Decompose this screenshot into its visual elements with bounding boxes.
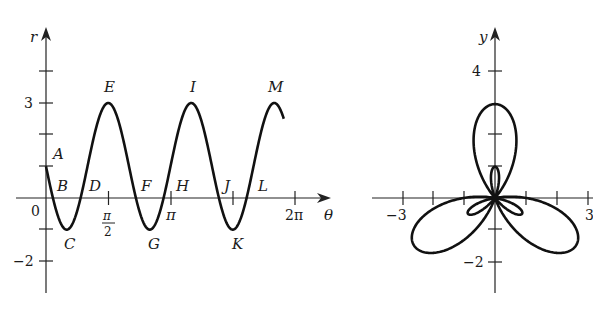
r-theta-curve	[46, 103, 284, 230]
point-label-g: G	[148, 235, 160, 253]
point-label-l: L	[257, 177, 268, 195]
figure: r θ 0 3 −2 π 2 π 2π A B C D E F G H I J …	[0, 0, 593, 311]
y-tick-neg2-label: −2	[463, 254, 484, 270]
r-tick-3-label: 3	[24, 95, 33, 111]
pi-half-numerator: π	[102, 209, 112, 223]
point-label-a: A	[51, 145, 64, 163]
point-label-f: F	[140, 177, 152, 195]
polar-chart: y 4 −2 −3 3	[372, 27, 593, 293]
point-labels: A B C D E F G H I J K L M	[51, 78, 284, 253]
origin-label: 0	[31, 203, 40, 219]
pi-label: π	[165, 206, 177, 224]
point-label-h: H	[175, 177, 190, 195]
cartesian-chart: r θ 0 3 −2 π 2 π 2π A B C D E F G H I J …	[13, 27, 333, 293]
r-tick-neg2-label: −2	[13, 253, 34, 269]
x-tick-3-label: 3	[585, 207, 593, 223]
theta-axis-label: θ	[324, 206, 333, 224]
point-label-k: K	[231, 235, 244, 253]
y-axis-label: y	[478, 28, 488, 46]
point-label-i: I	[189, 78, 197, 96]
point-label-b: B	[56, 177, 68, 195]
two-pi-label: 2π	[285, 207, 303, 223]
y-tick-4-label: 4	[472, 63, 481, 79]
point-label-c: C	[64, 235, 76, 253]
point-label-m: M	[267, 78, 284, 96]
x-tick-neg3-label: −3	[386, 207, 407, 223]
point-label-j: J	[221, 177, 231, 195]
r-axis-label: r	[30, 28, 38, 46]
pi-half-denominator: 2	[104, 225, 112, 239]
point-label-e: E	[103, 78, 115, 96]
point-label-d: D	[88, 177, 101, 195]
